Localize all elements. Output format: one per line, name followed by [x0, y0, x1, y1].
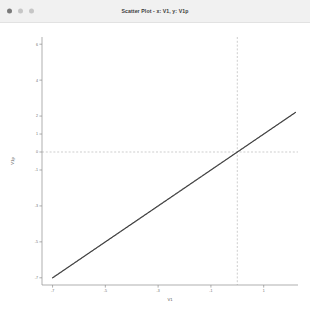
y-tick-label: 0 — [36, 150, 38, 154]
data-point — [295, 112, 296, 113]
y-tick-label: -5 — [35, 240, 38, 244]
y-tick-label: 4 — [36, 79, 38, 83]
x-tick-label: 1 — [263, 289, 265, 293]
data-series-group[interactable] — [52, 112, 296, 279]
y-tick-label: 6 — [36, 43, 38, 47]
y-axis-ticks: 64210-1-3-5-7 — [35, 43, 42, 281]
y-axis-title: V1p — [10, 157, 15, 165]
window-title: Scatter Plot - x: V1, y: V1p — [0, 8, 310, 14]
plot-area[interactable]: 64210-1-3-5-7 -7-5-3-1135 V1 V1p — [0, 23, 310, 309]
y-tick-label: 2 — [36, 114, 38, 118]
y-tick-label: -3 — [35, 204, 38, 208]
x-axis-ticks: -7-5-3-1135 — [51, 285, 310, 293]
x-tick-label: -3 — [157, 289, 160, 293]
window-titlebar: Scatter Plot - x: V1, y: V1p — [0, 0, 310, 23]
axes-group — [42, 37, 298, 285]
x-tick-label: -5 — [104, 289, 107, 293]
scatter-plot-window: Scatter Plot - x: V1, y: V1p 64210-1-3-5… — [0, 0, 310, 309]
y-tick-label: -7 — [35, 276, 38, 280]
y-tick-label: -1 — [35, 168, 38, 172]
y-tick-label: 1 — [36, 132, 38, 136]
x-tick-label: -7 — [51, 289, 54, 293]
reference-lines-group — [42, 37, 298, 285]
scatter-plot-svg[interactable]: 64210-1-3-5-7 -7-5-3-1135 V1 V1p — [0, 23, 310, 309]
x-axis-title: V1 — [167, 297, 173, 302]
x-tick-label: -1 — [209, 289, 212, 293]
